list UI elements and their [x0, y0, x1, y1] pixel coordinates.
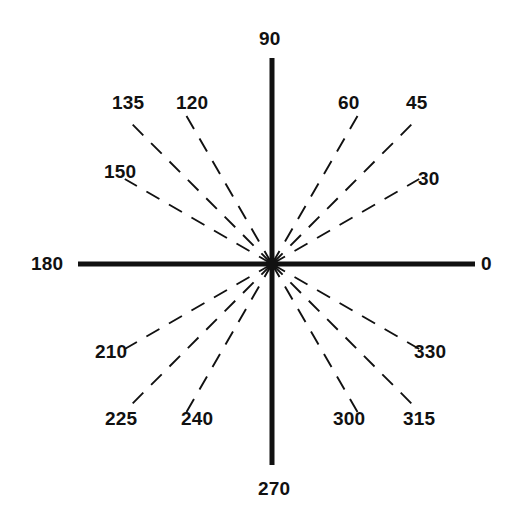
- angle-label-120: 120: [176, 93, 208, 112]
- angle-label-270: 270: [258, 479, 290, 498]
- angle-label-210: 210: [95, 342, 127, 361]
- polar-angle-diagram: 0304560901201351501802102252402703003153…: [0, 0, 518, 525]
- angle-label-225: 225: [105, 409, 137, 428]
- angle-label-135: 135: [112, 93, 144, 112]
- angle-label-240: 240: [181, 409, 213, 428]
- angle-label-330: 330: [414, 342, 446, 361]
- angle-label-30: 30: [418, 169, 440, 188]
- angle-label-90: 90: [259, 29, 281, 48]
- angle-label-315: 315: [403, 409, 435, 428]
- angle-label-45: 45: [406, 93, 428, 112]
- angle-label-60: 60: [338, 93, 360, 112]
- angle-label-layer: 0304560901201351501802102252402703003153…: [0, 0, 518, 525]
- angle-label-300: 300: [333, 409, 365, 428]
- angle-label-0: 0: [481, 254, 492, 273]
- angle-label-180: 180: [31, 254, 63, 273]
- angle-label-150: 150: [104, 162, 136, 181]
